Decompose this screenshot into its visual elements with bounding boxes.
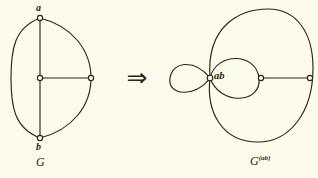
left-graph-label-b: b <box>36 142 41 152</box>
right-graph-group <box>170 9 313 142</box>
right-graph-vertex-ab <box>207 75 213 81</box>
graph-figure-svg <box>0 0 318 178</box>
right-graph-caption-superscript: (ab) <box>259 154 271 162</box>
right-graph-caption-base: G <box>250 154 259 168</box>
left-graph-group <box>11 15 94 140</box>
left-graph-arc-left <box>11 18 40 138</box>
right-graph-label-ab: ab <box>214 71 225 82</box>
left-graph-label-a: a <box>36 3 41 13</box>
left-graph-vertex-b <box>37 135 42 140</box>
left-graph-vertex-center <box>37 75 42 80</box>
right-graph-small-loop <box>170 65 210 93</box>
left-graph-vertex-a <box>37 15 42 20</box>
implies-arrow-icon: ⇒ <box>122 62 152 94</box>
right-graph-vertex-right <box>307 75 312 80</box>
right-graph-vertex-middle <box>258 75 263 80</box>
figure-canvas: a b G ab G(ab) ⇒ <box>0 0 318 178</box>
left-graph-caption: G <box>36 156 45 168</box>
left-graph-vertex-right <box>88 75 93 80</box>
right-graph-caption: G(ab) <box>250 155 270 167</box>
